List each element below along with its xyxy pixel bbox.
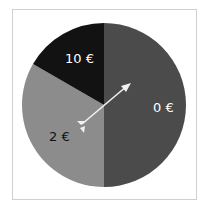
label-10-euro: 10 € [65, 51, 94, 66]
label-0-euro: 0 € [153, 100, 174, 115]
slice-0-euro [104, 23, 186, 187]
label-2-euro: 2 € [49, 129, 70, 144]
pie-chart: 0 € 2 € 10 € [0, 0, 205, 209]
